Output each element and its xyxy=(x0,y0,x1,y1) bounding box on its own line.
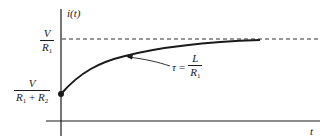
y-axis-label-func: i xyxy=(67,7,70,19)
initial-value-dot xyxy=(58,91,64,97)
tau-pointer-arrow-line xyxy=(128,57,170,66)
initial-numerator: V xyxy=(27,78,38,90)
asymptote-value-label: V R1 xyxy=(40,28,54,55)
time-constant-label: τ = L R1 xyxy=(172,53,202,80)
tau-den-subscript: 1 xyxy=(197,72,201,80)
den-symbol: R xyxy=(42,41,49,53)
asymptote-numerator: V xyxy=(42,28,53,40)
den-r2-subscript: 2 xyxy=(45,97,49,105)
tau-denominator: R1 xyxy=(188,66,202,80)
den-plus: + xyxy=(29,91,35,103)
tau-den-symbol: R xyxy=(190,66,197,78)
tau-fraction: L R1 xyxy=(188,53,202,80)
den-r1-symbol: R xyxy=(16,91,23,103)
current-curve xyxy=(61,40,260,94)
den-r2-symbol: R xyxy=(38,91,45,103)
den-subscript: 1 xyxy=(49,47,53,55)
current-response-graph xyxy=(0,0,332,139)
x-axis-label: t xyxy=(310,126,313,137)
asymptote-denominator: R1 xyxy=(40,41,54,55)
y-axis-label: i(t) xyxy=(67,8,80,19)
y-axis-label-arg: t xyxy=(74,7,77,19)
initial-denominator: R1 + R2 xyxy=(14,91,50,105)
tau-numerator: L xyxy=(190,53,200,65)
equals-sign: = xyxy=(179,61,185,73)
tau-symbol: τ xyxy=(172,61,176,73)
initial-value-label: V R1 + R2 xyxy=(14,78,50,105)
den-r1-subscript: 1 xyxy=(23,97,27,105)
